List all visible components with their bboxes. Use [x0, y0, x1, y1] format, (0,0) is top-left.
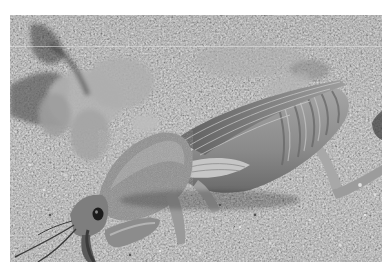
photograph: A mole cricket with large digging forele…: [10, 15, 382, 262]
mole-cricket-scene: [10, 15, 382, 262]
cricket-eye: [93, 208, 104, 221]
cricket-shadow: [120, 190, 300, 210]
scan-line-artifact: [10, 46, 382, 47]
